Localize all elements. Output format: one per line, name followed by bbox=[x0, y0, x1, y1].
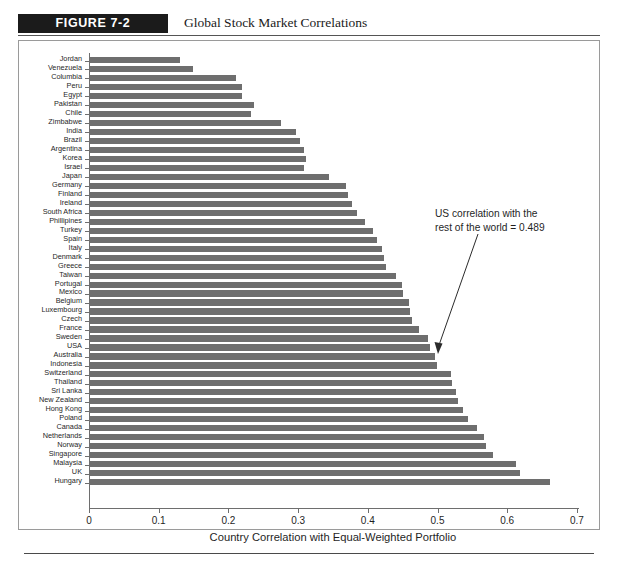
country-label: Germany bbox=[0, 181, 82, 189]
bar-row: Thailand bbox=[0, 380, 600, 388]
bar bbox=[89, 93, 242, 99]
country-label: Indonesia bbox=[0, 360, 82, 368]
bar-row: Czech bbox=[0, 317, 600, 325]
country-label: Brazil bbox=[0, 136, 82, 144]
country-label: Australia bbox=[0, 351, 82, 359]
bar-row: Japan bbox=[0, 174, 600, 182]
bar-row: Egypt bbox=[0, 93, 600, 101]
country-label: Czech bbox=[0, 315, 82, 323]
bar-row: Taiwan bbox=[0, 273, 600, 281]
bar-row: UK bbox=[0, 470, 600, 478]
bar bbox=[89, 371, 451, 377]
bar-row: Finland bbox=[0, 192, 600, 200]
bar bbox=[89, 434, 484, 440]
bar-row: Norway bbox=[0, 443, 600, 451]
x-axis-tick bbox=[298, 509, 299, 513]
bar-row: New Zealand bbox=[0, 398, 600, 406]
country-label: Taiwan bbox=[0, 271, 82, 279]
country-label: Venezuela bbox=[0, 64, 82, 72]
bar-row: Australia bbox=[0, 353, 600, 361]
country-label: Columbia bbox=[0, 73, 82, 81]
country-label: India bbox=[0, 127, 82, 135]
bar bbox=[89, 219, 365, 225]
x-axis-tick-label: 0.4 bbox=[353, 515, 383, 526]
x-axis-tick bbox=[438, 509, 439, 513]
bar-row: Netherlands bbox=[0, 434, 600, 442]
bar bbox=[89, 201, 352, 207]
bar bbox=[89, 102, 254, 108]
country-label: Ireland bbox=[0, 199, 82, 207]
country-label: Phillipines bbox=[0, 217, 82, 225]
bar bbox=[89, 416, 468, 422]
bar-row: Korea bbox=[0, 156, 600, 164]
x-axis-title: Country Correlation with Equal-Weighted … bbox=[29, 531, 618, 543]
bar-row: USA bbox=[0, 344, 600, 352]
bar bbox=[89, 380, 452, 386]
bar bbox=[89, 425, 477, 431]
x-axis-tick bbox=[228, 509, 229, 513]
bar-row: Brazil bbox=[0, 138, 600, 146]
bar-row: Peru bbox=[0, 84, 600, 92]
bar bbox=[89, 282, 402, 288]
bar bbox=[89, 210, 357, 216]
x-axis-tick-label: 0.7 bbox=[562, 515, 592, 526]
bar-row: Canada bbox=[0, 425, 600, 433]
annotation-arrow-icon bbox=[420, 230, 500, 360]
country-label: Greece bbox=[0, 262, 82, 270]
bar bbox=[89, 335, 428, 341]
x-axis-tick-label: 0.2 bbox=[213, 515, 243, 526]
bar-row: Argentina bbox=[0, 147, 600, 155]
country-label: Egypt bbox=[0, 91, 82, 99]
x-axis-tick bbox=[507, 509, 508, 513]
bar-row: Sri Lanka bbox=[0, 389, 600, 397]
bar-row: Jordan bbox=[0, 57, 600, 65]
country-label: Pakistan bbox=[0, 100, 82, 108]
country-label: Italy bbox=[0, 244, 82, 252]
country-label: Hungary bbox=[0, 477, 82, 485]
bar-row: Belgium bbox=[0, 299, 600, 307]
bar-row: Hungary bbox=[0, 479, 600, 487]
country-label: Sweden bbox=[0, 333, 82, 341]
country-label: Chile bbox=[0, 109, 82, 117]
country-label: Spain bbox=[0, 235, 82, 243]
bar bbox=[89, 264, 386, 270]
bar-row: Singapore bbox=[0, 452, 600, 460]
bar bbox=[89, 165, 304, 171]
country-label: Denmark bbox=[0, 253, 82, 261]
bar bbox=[89, 255, 384, 261]
country-label: Singapore bbox=[0, 450, 82, 458]
footer-divider bbox=[24, 553, 594, 554]
bar bbox=[89, 290, 403, 296]
country-label: Poland bbox=[0, 414, 82, 422]
country-label: Mexico bbox=[0, 288, 82, 296]
bar bbox=[89, 470, 520, 476]
bar-row: Mexico bbox=[0, 290, 600, 298]
bar bbox=[89, 344, 430, 350]
country-label: Portugal bbox=[0, 280, 82, 288]
bar bbox=[89, 479, 550, 485]
country-label: Hong Kong bbox=[0, 405, 82, 413]
country-label: Sri Lanka bbox=[0, 387, 82, 395]
bar bbox=[89, 57, 180, 63]
bar bbox=[89, 111, 251, 117]
bar bbox=[89, 273, 396, 279]
x-axis-tick bbox=[368, 509, 369, 513]
country-label: Luxembourg bbox=[0, 306, 82, 314]
x-axis-tick-label: 0.5 bbox=[423, 515, 453, 526]
x-axis-tick bbox=[89, 509, 90, 513]
bar-row: Greece bbox=[0, 264, 600, 272]
bar-row: Malaysia bbox=[0, 461, 600, 469]
country-label: Thailand bbox=[0, 378, 82, 386]
bar-row: France bbox=[0, 326, 600, 334]
bar-row: Sweden bbox=[0, 335, 600, 343]
country-label: Israel bbox=[0, 163, 82, 171]
bar-row: Denmark bbox=[0, 255, 600, 263]
x-axis-tick-label: 0.3 bbox=[283, 515, 313, 526]
country-label: Malaysia bbox=[0, 459, 82, 467]
country-label: France bbox=[0, 324, 82, 332]
bar bbox=[89, 353, 435, 359]
bar bbox=[89, 452, 493, 458]
x-axis-line bbox=[89, 508, 579, 509]
x-axis-tick bbox=[159, 509, 160, 513]
country-label: Finland bbox=[0, 190, 82, 198]
